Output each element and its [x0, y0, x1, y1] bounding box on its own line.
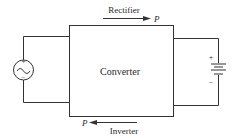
- ac-top-wire: [24, 37, 70, 61]
- ac-plus: +: [22, 58, 26, 66]
- rectifier-power-symbol: P: [153, 14, 160, 24]
- converter-label: Converter: [100, 66, 141, 77]
- battery-icon: [211, 64, 226, 74]
- inverter-label: Inverter: [110, 126, 138, 136]
- ac-bottom-wire: [24, 80, 70, 103]
- rectifier-arrow-icon: [103, 16, 151, 21]
- battery-plus: +: [209, 53, 214, 62]
- inverter-power-symbol: P: [81, 118, 88, 128]
- rectifier-label: Rectifier: [108, 5, 139, 15]
- converter-diagram: + − + − Converter Rectifier P P Inverter: [0, 0, 235, 138]
- ac-minus: −: [22, 74, 26, 82]
- battery-minus: −: [209, 78, 214, 87]
- inverter-arrow-icon: [89, 120, 137, 125]
